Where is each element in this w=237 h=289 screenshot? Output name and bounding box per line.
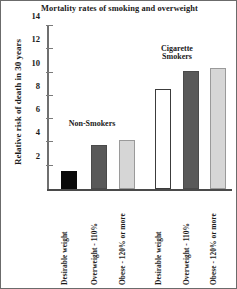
y-tick-label: 4 <box>36 127 40 137</box>
group-label-non-smokers: Non-Smokers <box>49 120 135 128</box>
y-tick-label: 2 <box>36 151 40 161</box>
x-axis-label-text: Overweight - 110% <box>90 223 99 285</box>
y-tick-label: 10 <box>31 58 40 68</box>
group-label-cigarette-smokers: Cigarette Smokers <box>139 45 215 62</box>
y-tick-mark <box>46 165 53 166</box>
y-axis-label: Relative risk of death in 30 years <box>13 22 23 182</box>
y-tick-label: 6 <box>36 104 40 114</box>
bar <box>61 171 77 189</box>
y-tick-mark <box>46 72 53 73</box>
bar <box>91 145 107 189</box>
bar <box>210 68 226 189</box>
x-axis-label-text: Desirable weight <box>154 231 163 285</box>
chart-figure: Mortality rates of smoking and overweigh… <box>0 0 237 289</box>
x-axis-label-group: Desirable weightOverweight - 110%Obese -… <box>47 193 232 287</box>
x-axis-label: Overweight - 110% <box>91 193 107 287</box>
y-tick-mark <box>46 95 53 96</box>
x-axis-label-text: Desirable weight <box>60 231 69 285</box>
x-axis-line <box>47 189 232 191</box>
y-tick-mark <box>46 141 53 142</box>
y-tick-mark <box>46 48 53 49</box>
x-axis-label: Obese - 120% or more <box>119 193 135 287</box>
y-tick-mark <box>46 118 53 119</box>
bar <box>119 140 135 189</box>
x-axis-label-text: Obese - 120% or more <box>209 213 218 285</box>
x-axis-label: Overweight - 110% <box>183 193 199 287</box>
x-axis-label: Desirable weight <box>61 193 77 287</box>
bar <box>183 71 199 189</box>
y-tick-label: 14 <box>31 11 40 21</box>
x-axis-label: Obese - 120% or more <box>210 193 226 287</box>
x-axis-label-text: Overweight - 110% <box>182 223 191 285</box>
y-tick-mark <box>46 25 53 26</box>
y-tick-label: 12 <box>31 34 40 44</box>
x-axis-label: Desirable weight <box>155 193 171 287</box>
bar <box>155 89 171 189</box>
x-axis-label-text: Obese - 120% or more <box>118 213 127 285</box>
y-tick-label: 8 <box>36 81 40 91</box>
